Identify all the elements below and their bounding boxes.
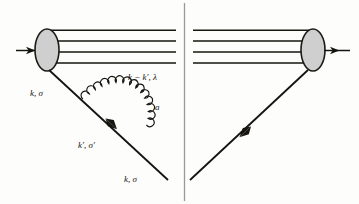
gluon-arc-spiral bbox=[81, 76, 155, 127]
label-gluon-momentum: k − k′, λ bbox=[128, 72, 157, 82]
quark-line-left bbox=[49, 70, 168, 180]
hadron-blob-left bbox=[35, 29, 59, 71]
spectator-lines-right bbox=[193, 30, 312, 63]
quark-line-right bbox=[190, 70, 308, 180]
hadron-blob-right bbox=[301, 29, 325, 71]
spectator-lines-left bbox=[47, 30, 176, 63]
label-incoming-quark: k, σ bbox=[30, 88, 43, 98]
feynman-diagram: k, σ k − k′, λ a k′, σ′ k, σ bbox=[0, 0, 359, 204]
figure-canvas: k, σ k − k′, λ a k′, σ′ k, σ bbox=[0, 0, 359, 204]
label-outgoing-quark: k, σ bbox=[124, 174, 137, 184]
label-intermediate-quark: k′, σ′ bbox=[78, 140, 96, 150]
label-gluon-color-index: a bbox=[155, 102, 160, 112]
outgoing-arrow-right bbox=[324, 47, 350, 54]
